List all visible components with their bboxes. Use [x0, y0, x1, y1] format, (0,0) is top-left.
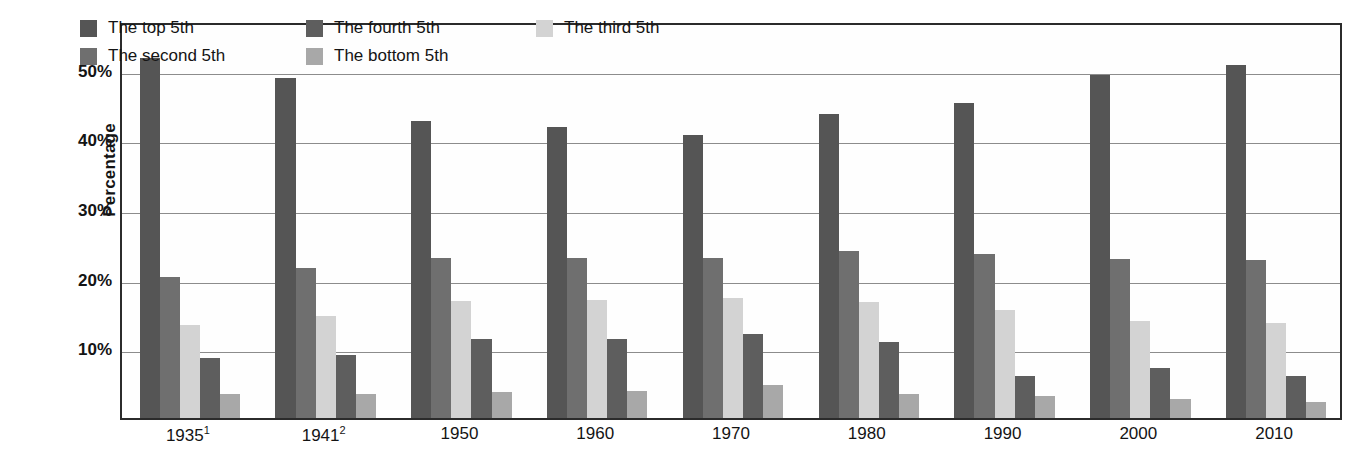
bar: [1266, 323, 1286, 418]
bar: [1246, 260, 1266, 418]
bar: [200, 358, 220, 418]
bar: [567, 258, 587, 418]
bar: [1035, 396, 1055, 418]
bar: [1170, 399, 1190, 418]
legend-label: The top 5th: [108, 18, 194, 38]
bar: [627, 391, 647, 418]
bar-group: [1226, 25, 1326, 418]
legend-swatch-icon: [306, 48, 323, 65]
bar: [879, 342, 899, 418]
bar: [431, 258, 451, 418]
legend-swatch-icon: [536, 20, 553, 37]
bar-group: [819, 25, 919, 418]
y-axis-tick-labels: 10%20%30%40%50%: [40, 23, 116, 420]
bar: [859, 302, 879, 418]
bar: [296, 268, 316, 418]
bar: [743, 334, 763, 418]
bar-group: [411, 25, 511, 418]
bar: [954, 103, 974, 418]
bar: [607, 339, 627, 418]
bar: [471, 339, 491, 418]
legend-item[interactable]: The second 5th: [80, 42, 306, 70]
bar: [899, 394, 919, 418]
chart-legend: The top 5thThe fourth 5thThe third 5thTh…: [80, 14, 780, 70]
bar: [140, 58, 160, 418]
legend-label: The third 5th: [564, 18, 659, 38]
x-axis-tick-label: 2010: [1255, 424, 1293, 444]
bar: [1015, 376, 1035, 418]
bar: [547, 127, 567, 418]
bar: [1130, 321, 1150, 419]
bar: [411, 121, 431, 418]
legend-label: The fourth 5th: [334, 18, 440, 38]
legend-item[interactable]: The top 5th: [80, 14, 306, 42]
bar: [763, 385, 783, 418]
legend-swatch-icon: [80, 48, 97, 65]
y-axis-tick-label: 30%: [78, 201, 112, 221]
bar: [356, 394, 376, 418]
bar: [492, 392, 512, 418]
x-axis-tick-label: 2000: [1119, 424, 1157, 444]
bar: [974, 254, 994, 418]
x-axis-tick-label: 19412: [302, 424, 346, 446]
footnote-marker: 1: [204, 424, 210, 436]
x-axis-tick-label: 1990: [984, 424, 1022, 444]
bar: [316, 316, 336, 418]
x-axis-tick-label: 1970: [712, 424, 750, 444]
bar: [723, 298, 743, 418]
legend-swatch-icon: [80, 20, 97, 37]
bar-group: [275, 25, 375, 418]
x-axis-tick-label: 1950: [441, 424, 479, 444]
bar: [220, 394, 240, 418]
legend-label: The bottom 5th: [334, 46, 448, 66]
bar: [451, 301, 471, 418]
y-axis-tick-label: 10%: [78, 340, 112, 360]
bars-layer: [122, 25, 1340, 418]
bar: [1286, 376, 1306, 418]
bar: [819, 114, 839, 418]
bar-chart: Percentage 10%20%30%40%50% The top 5thTh…: [0, 0, 1354, 473]
y-axis-tick-label: 20%: [78, 271, 112, 291]
bar-group: [547, 25, 647, 418]
x-axis-tick-label: 19351: [166, 424, 210, 446]
bar: [1090, 75, 1110, 418]
x-axis-tick-label: 1980: [848, 424, 886, 444]
y-axis-tick-label: 40%: [78, 131, 112, 151]
bar: [703, 258, 723, 418]
bar-group: [140, 25, 240, 418]
bar: [336, 355, 356, 418]
legend-item[interactable]: The bottom 5th: [306, 42, 536, 70]
footnote-marker: 2: [340, 424, 346, 436]
bar: [1110, 259, 1130, 418]
legend-label: The second 5th: [108, 46, 225, 66]
bar: [160, 277, 180, 418]
bar: [1306, 402, 1326, 418]
x-axis-tick-labels: 19351194121950196019701980199020002010: [120, 424, 1342, 464]
bar-group: [683, 25, 783, 418]
bar: [1150, 368, 1170, 418]
legend-item[interactable]: The fourth 5th: [306, 14, 536, 42]
legend-item[interactable]: The third 5th: [536, 14, 766, 42]
bar: [275, 78, 295, 418]
bar: [180, 325, 200, 418]
bar-group: [1090, 25, 1190, 418]
x-axis-tick-label: 1960: [576, 424, 614, 444]
bar: [839, 251, 859, 418]
legend-swatch-icon: [306, 20, 323, 37]
bar: [587, 300, 607, 418]
plot-area: [120, 23, 1342, 420]
bar-group: [954, 25, 1054, 418]
bar: [1226, 65, 1246, 418]
bar: [683, 135, 703, 418]
bar: [995, 310, 1015, 418]
